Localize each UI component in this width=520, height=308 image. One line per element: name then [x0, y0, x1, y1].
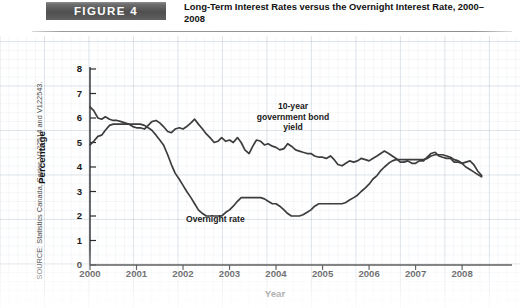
x-axis-tick-label: 2007	[396, 268, 436, 279]
x-axis-tick-label: 2008	[442, 268, 482, 279]
y-axis-tick-label: 2	[68, 210, 82, 221]
x-axis-tick-label: 2004	[256, 268, 296, 279]
bond-annot-line1: 10-year	[246, 101, 340, 112]
series-line-overnight-rate	[90, 124, 482, 216]
y-axis-tick-label: 1	[68, 235, 82, 246]
overnight-rate-annotation: Overnight rate	[186, 214, 270, 225]
x-axis-tick-label: 2000	[70, 268, 110, 279]
y-axis-tick-label: 8	[68, 63, 82, 74]
y-axis-tick-label: 7	[68, 88, 82, 99]
bond-annot-line2: government bond	[246, 112, 340, 123]
x-axis-tick-label: 2006	[349, 268, 389, 279]
x-axis-tick-label: 2003	[210, 268, 250, 279]
bond-annot-line3: yield	[246, 122, 340, 133]
x-axis-tick-label: 2002	[163, 268, 203, 279]
y-axis-tick-label: 3	[68, 186, 82, 197]
x-axis-tick-label: 2001	[117, 268, 157, 279]
x-axis-title: Year	[245, 288, 305, 299]
x-axis-tick-label: 2005	[303, 268, 343, 279]
interest-rates-line-chart: Percentage Year 10-year government bond …	[0, 0, 520, 308]
y-axis-tick-label: 4	[68, 161, 82, 172]
bond-yield-annotation: 10-year government bond yield	[246, 101, 340, 133]
y-axis-tick-label: 6	[68, 112, 82, 123]
y-axis-title: Percentage	[36, 113, 47, 203]
y-axis-tick-label: 5	[68, 137, 82, 148]
